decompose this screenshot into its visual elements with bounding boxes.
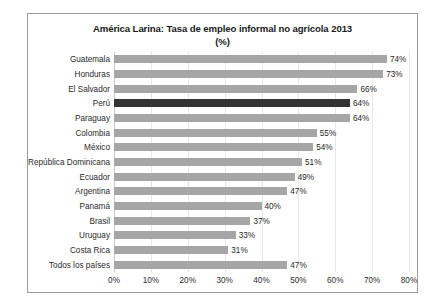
bar-row: El Salvador66% xyxy=(114,81,409,96)
bar xyxy=(114,70,383,78)
x-tick-label: 20% xyxy=(180,276,196,285)
bar xyxy=(114,129,317,137)
data-label: 64% xyxy=(350,113,369,122)
bar-row: Argentina47% xyxy=(114,184,409,199)
category-label: México xyxy=(84,143,110,152)
bar-rows: Guatemala74%Honduras73%El Salvador66%Per… xyxy=(114,52,409,272)
bar-row: México54% xyxy=(114,140,409,155)
category-label: Costa Rica xyxy=(70,245,110,254)
bar-row: Todos los países47% xyxy=(114,257,409,272)
chart-title-main: América Larina: Tasa de empleo informal … xyxy=(93,23,352,34)
bar xyxy=(114,158,302,166)
category-label: Brasil xyxy=(90,216,110,225)
bar-row: Uruguay33% xyxy=(114,228,409,243)
category-label: Paraguay xyxy=(75,113,110,122)
bar-row: República Dominicana51% xyxy=(114,155,409,170)
category-label: Perú xyxy=(93,99,110,108)
chart-title: América Larina: Tasa de empleo informal … xyxy=(28,22,417,48)
bar-row: Brasil37% xyxy=(114,213,409,228)
bar xyxy=(114,202,262,210)
bar xyxy=(114,231,236,239)
bar xyxy=(114,173,295,181)
bar-row: Costa Rica31% xyxy=(114,243,409,258)
bar-row: Colombia55% xyxy=(114,125,409,140)
data-label: 51% xyxy=(302,157,321,166)
x-tick-label: 40% xyxy=(253,276,269,285)
category-label: Argentina xyxy=(75,187,110,196)
data-label: 66% xyxy=(357,84,376,93)
category-label: República Dominicana xyxy=(28,157,110,166)
bar xyxy=(114,114,350,122)
bar xyxy=(114,187,287,195)
bar xyxy=(114,85,357,93)
bar-row: Perú64% xyxy=(114,96,409,111)
data-label: 40% xyxy=(262,201,281,210)
plot-wrapper: Guatemala74%Honduras73%El Salvador66%Per… xyxy=(28,52,419,294)
x-tick-label: 30% xyxy=(216,276,232,285)
data-label: 73% xyxy=(383,69,402,78)
data-label: 33% xyxy=(236,231,255,240)
data-label: 55% xyxy=(317,128,336,137)
data-label: 54% xyxy=(313,143,332,152)
category-label: El Salvador xyxy=(68,84,110,93)
category-label: Honduras xyxy=(74,69,110,78)
data-label: 37% xyxy=(250,216,269,225)
x-tick-label: 70% xyxy=(364,276,380,285)
bar xyxy=(114,55,387,63)
category-label: Guatemala xyxy=(70,55,110,64)
x-tick-label: 60% xyxy=(327,276,343,285)
data-label: 49% xyxy=(295,172,314,181)
gridline-80 xyxy=(409,52,410,272)
bar-row: Paraguay64% xyxy=(114,111,409,126)
data-label: 31% xyxy=(228,245,247,254)
bar-row: Panamá40% xyxy=(114,199,409,214)
bar xyxy=(114,143,313,151)
x-axis: 0%10%20%30%40%50%60%70%80% xyxy=(114,274,409,290)
bar xyxy=(114,217,250,225)
x-tick-label: 0% xyxy=(108,276,120,285)
category-label: Panamá xyxy=(80,201,111,210)
x-tick-label: 50% xyxy=(290,276,306,285)
bar xyxy=(114,261,287,269)
category-label: Ecuador xyxy=(80,172,111,181)
category-label: Uruguay xyxy=(79,231,110,240)
data-label: 74% xyxy=(387,55,406,64)
bar-row: Guatemala74% xyxy=(114,52,409,67)
bar xyxy=(114,246,228,254)
data-label: 47% xyxy=(287,187,306,196)
data-label: 47% xyxy=(287,260,306,269)
bar xyxy=(114,99,350,107)
bar-row: Honduras73% xyxy=(114,67,409,82)
category-label: Colombia xyxy=(75,128,110,137)
bar-row: Ecuador49% xyxy=(114,169,409,184)
x-tick-label: 10% xyxy=(143,276,159,285)
chart-container: América Larina: Tasa de empleo informal … xyxy=(27,13,418,293)
chart-subtitle: (%) xyxy=(28,35,417,48)
x-tick-label: 80% xyxy=(401,276,417,285)
data-label: 64% xyxy=(350,99,369,108)
category-label: Todos los países xyxy=(49,260,110,269)
plot-area: Guatemala74%Honduras73%El Salvador66%Per… xyxy=(114,52,409,272)
